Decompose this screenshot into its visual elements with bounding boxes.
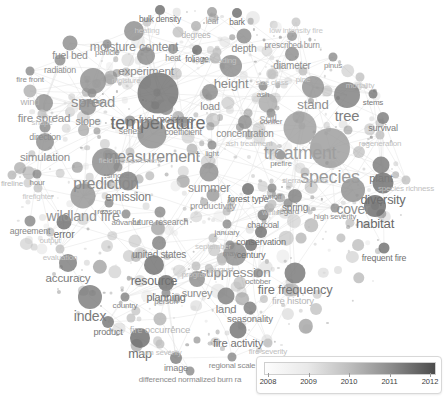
network-node — [194, 10, 196, 12]
network-node — [63, 36, 78, 51]
network-node — [62, 124, 71, 133]
node-label: bark — [229, 18, 245, 26]
network-node — [328, 249, 331, 252]
node-label: stems — [363, 99, 383, 107]
node-label: differenced normalized burn ra — [139, 376, 241, 384]
node-label: diameter — [273, 61, 310, 71]
network-node — [218, 288, 235, 305]
network-node — [324, 231, 326, 233]
network-node — [353, 272, 364, 283]
network-node — [145, 171, 154, 180]
legend-tick-label: 2011 — [381, 377, 397, 386]
network-node — [277, 267, 279, 269]
network-node — [56, 169, 65, 178]
network-node — [207, 333, 209, 335]
network-node — [57, 290, 61, 294]
network-node — [215, 329, 220, 334]
legend-tick-label: 2009 — [300, 377, 317, 386]
network-node — [251, 174, 255, 178]
network-node — [152, 236, 166, 250]
network-node — [108, 231, 117, 240]
node-label: regional scale — [209, 362, 256, 370]
network-node — [247, 18, 254, 25]
network-node — [84, 260, 90, 266]
network-node — [180, 40, 183, 43]
network-node — [213, 116, 219, 122]
network-node — [121, 289, 124, 292]
network-node — [185, 343, 189, 347]
color-legend: 20082009201020112012 — [256, 356, 442, 394]
network-node — [164, 172, 169, 177]
network-node — [226, 106, 234, 114]
node-label: person — [154, 298, 177, 306]
network-node — [57, 197, 59, 199]
network-node — [130, 262, 132, 264]
network-node — [181, 305, 183, 307]
network-node — [400, 214, 402, 216]
network-node — [93, 260, 107, 274]
network-node — [199, 141, 205, 147]
node-label: century — [237, 251, 266, 260]
node-label: load — [200, 100, 220, 111]
node-label: survey — [182, 287, 213, 298]
network-node — [49, 168, 51, 170]
node-label: ash treatment — [226, 140, 272, 148]
network-node — [273, 341, 275, 343]
network-node — [353, 222, 355, 224]
node-label: shape — [32, 119, 53, 127]
network-node — [284, 260, 287, 263]
network-node — [237, 29, 252, 44]
network-node — [206, 112, 208, 114]
network-node — [320, 48, 323, 51]
network-node — [281, 186, 283, 188]
node-label: united states — [132, 250, 186, 260]
network-node — [64, 102, 67, 105]
node-label: stand — [297, 98, 328, 111]
node-label: species richness — [378, 185, 434, 193]
network-node — [290, 257, 292, 259]
node-label: prefire — [270, 160, 291, 168]
network-node — [324, 75, 326, 77]
network-node — [100, 305, 102, 307]
node-label: product — [93, 328, 122, 337]
network-node — [341, 64, 355, 78]
network-node — [336, 233, 345, 242]
network-node — [203, 22, 205, 24]
node-label: radiation — [44, 66, 76, 75]
node-label: program — [182, 271, 210, 279]
network-node — [19, 176, 21, 178]
network-node — [288, 323, 290, 325]
network-node — [108, 265, 121, 278]
node-label: light — [205, 150, 219, 158]
network-node — [173, 317, 175, 319]
node-label: conifer — [260, 118, 283, 126]
network-node — [372, 280, 374, 282]
node-label: evaluation — [43, 254, 77, 262]
network-node — [98, 251, 101, 254]
node-label: summer — [188, 182, 230, 194]
network-node — [281, 308, 293, 320]
node-label: size class — [256, 79, 289, 87]
node-label: winter — [262, 209, 282, 217]
network-node — [109, 291, 112, 294]
network-node — [318, 268, 328, 278]
node-label: september — [195, 243, 231, 251]
node-label: october — [245, 278, 270, 286]
node-label: survival — [368, 124, 398, 133]
node-label: fuel loading — [198, 57, 237, 65]
network-node — [170, 181, 181, 192]
node-label: moisture — [111, 77, 140, 85]
network-node — [84, 247, 87, 250]
network-node — [202, 220, 206, 224]
network-node — [103, 291, 106, 294]
node-label: august — [211, 266, 234, 274]
node-label: seasonality — [227, 315, 273, 325]
network-node — [21, 206, 23, 208]
network-node — [352, 300, 354, 302]
node-label: advance — [112, 219, 141, 227]
network-node — [116, 90, 118, 92]
network-node — [280, 344, 282, 346]
network-node — [178, 166, 188, 176]
node-label: heat — [165, 54, 181, 62]
network-node — [365, 240, 371, 246]
